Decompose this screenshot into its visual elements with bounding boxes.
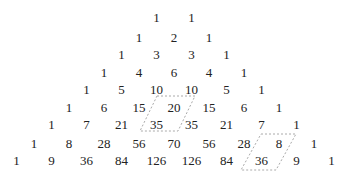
highlight-overlay (0, 0, 345, 178)
parallelogram-highlight-1 (140, 96, 195, 131)
parallelogram-highlight-2 (241, 134, 296, 170)
